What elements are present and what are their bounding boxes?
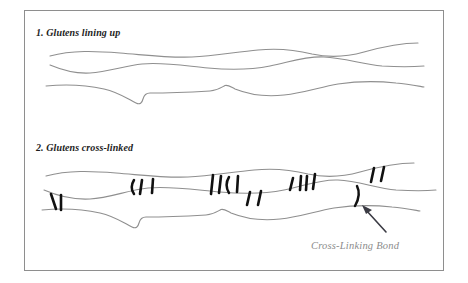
cross-linking-bond-annotation-label: Cross-Linking Bond xyxy=(311,240,399,251)
panel-1-title: 1. Glutens lining up xyxy=(36,27,120,38)
panel-2-title: 2. Glutens cross-linked xyxy=(36,142,133,153)
figure-frame-border xyxy=(24,10,444,271)
figure-root: 1. Glutens lining up 2. Glutens cross-li… xyxy=(0,0,468,283)
